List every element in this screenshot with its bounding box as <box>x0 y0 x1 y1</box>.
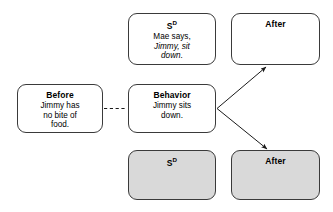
box-sd-top-body: Mae says, Jimmy, sit down. <box>149 32 194 61</box>
box-sd-bottom-title: SD <box>167 156 177 168</box>
box-sd-top-line-3: down. <box>161 51 183 60</box>
box-sd-top[interactable]: SD Mae says, Jimmy, sit down. <box>128 13 216 65</box>
box-sd-bottom-title-superscript: D <box>173 156 178 163</box>
box-sd-top-title: SD <box>167 19 177 31</box>
box-before-title: Before <box>46 90 74 100</box>
box-behavior-line-2: down. <box>161 111 183 120</box>
box-after-top-title: After <box>265 19 285 29</box>
box-after-bottom-title: After <box>265 156 285 166</box>
box-behavior-body: Jimmy sits down. <box>149 101 195 120</box>
box-sd-bottom[interactable]: SD <box>128 150 216 200</box>
box-after-top[interactable]: After <box>231 13 320 65</box>
box-before[interactable]: Before Jimmy has no bite of food. <box>17 84 103 133</box>
box-sd-top-line-1: Mae says, <box>153 32 190 41</box>
connector-behavior-to-after-top <box>217 67 266 109</box>
box-before-body: Jimmy has no bite of food. <box>36 101 83 130</box>
box-before-line-2: no bite of <box>43 111 77 120</box>
box-before-line-3: food. <box>51 120 69 129</box>
box-behavior[interactable]: Behavior Jimmy sits down. <box>128 84 216 133</box>
box-sd-top-line-2: Jimmy, sit <box>154 42 190 51</box>
connector-behavior-to-after-bottom <box>217 109 267 150</box>
box-behavior-line-1: Jimmy sits <box>153 101 191 110</box>
box-after-bottom[interactable]: After <box>231 150 320 200</box>
behavior-contingency-diagram: SD Mae says, Jimmy, sit down. After Befo… <box>0 0 333 212</box>
box-behavior-title: Behavior <box>153 90 190 100</box>
box-before-line-1: Jimmy has <box>40 101 79 110</box>
box-sd-top-title-superscript: D <box>173 19 178 26</box>
